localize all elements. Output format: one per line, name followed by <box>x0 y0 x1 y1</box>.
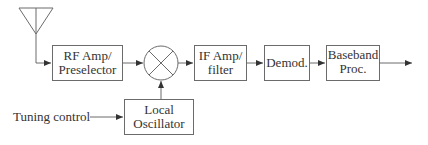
baseband-label-line1: Baseband <box>328 47 379 62</box>
demod-label: Demod. <box>266 55 308 70</box>
if-amp-label-line1: IF Amp/ <box>199 48 243 63</box>
receiver-block-diagram: RF Amp/ Preselector IF Amp/ filter Demod… <box>0 0 428 145</box>
rf-amp-preselector-block: RF Amp/ Preselector <box>53 46 123 81</box>
antenna-to-rf-wire <box>36 34 51 63</box>
if-amp-label-line2: filter <box>208 62 234 77</box>
tuning-control-label: Tuning control <box>13 109 91 124</box>
baseband-label-line2: Proc. <box>339 61 366 76</box>
local-oscillator-block: Local Oscillator <box>125 100 194 135</box>
if-amp-filter-block: IF Amp/ filter <box>195 46 247 81</box>
demod-block: Demod. <box>265 46 310 81</box>
baseband-proc-block: Baseband Proc. <box>327 46 380 81</box>
rf-amp-label-line1: RF Amp/ <box>63 48 111 63</box>
rf-amp-label-line2: Preselector <box>59 62 117 77</box>
local-osc-label-line1: Local <box>144 102 174 117</box>
mixer-icon <box>144 46 178 80</box>
local-osc-label-line2: Oscillator <box>133 116 185 131</box>
antenna-icon <box>19 8 53 34</box>
